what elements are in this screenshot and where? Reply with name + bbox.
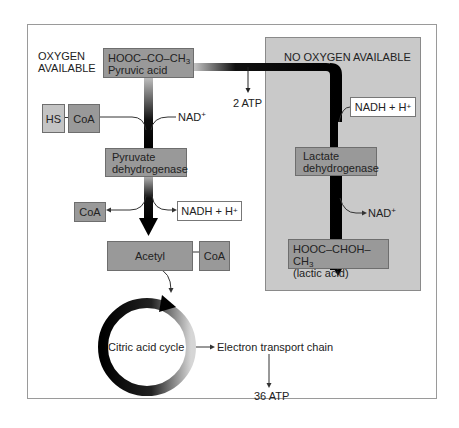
- lactic-acid-box: HOOC–CHOH–CH3 (lactic acid): [288, 239, 389, 269]
- nad-plus-lactate-label: NAD+: [368, 207, 396, 219]
- lactic-acid-formula: HOOC–CHOH–CH3: [293, 243, 388, 267]
- pdh-line2: dehydrogenase: [112, 163, 186, 175]
- acetyl-box: Acetyl: [107, 241, 193, 271]
- pyruvic-acid-box: HOOC–CO–CH3 Pyruvic acid: [103, 48, 194, 78]
- nadh-pdh-box: NADH + H+: [177, 201, 242, 221]
- arrowhead-acetyl: [139, 218, 158, 236]
- coa-acetyl-box: CoA: [199, 241, 230, 271]
- hs-box: HS: [42, 104, 65, 133]
- oxygen-label-line2: AVAILABLE: [38, 62, 96, 74]
- atp-2-label: 2 ATP: [233, 97, 262, 109]
- arrow-pyruvate-to-pdh: [144, 78, 153, 148]
- pyruvic-acid-name: Pyruvic acid: [108, 64, 193, 76]
- ldh-line2: dehydrogenase: [303, 162, 376, 174]
- nad-plus-label: NAD+: [178, 111, 206, 123]
- lactate-dehydrogenase-box: Lactate dehydrogenase: [295, 147, 377, 176]
- ldh-line1: Lactate: [303, 150, 376, 162]
- oxygen-label-line1: OXYGEN: [38, 50, 96, 62]
- coa-top-box: CoA: [68, 104, 100, 133]
- citric-acid-cycle-label: Citric acid cycle: [108, 341, 184, 353]
- oxygen-available-label: OXYGEN AVAILABLE: [38, 50, 96, 74]
- no-oxygen-available-label: NO OXYGEN AVAILABLE: [284, 51, 411, 63]
- pyruvate-dehydrogenase-box: Pyruvate dehydrogenase: [105, 148, 187, 177]
- pyruvic-acid-formula: HOOC–CO–CH3: [108, 52, 193, 64]
- electron-transport-chain-label: Electron transport chain: [217, 341, 333, 353]
- pdh-line1: Pyruvate: [112, 151, 186, 163]
- lactic-acid-name: (lactic acid): [293, 267, 388, 279]
- nadh-lactate-box: NADH + H+: [350, 97, 416, 117]
- coa-released-box: CoA: [74, 202, 106, 222]
- atp-36-label: 36 ATP: [254, 390, 289, 402]
